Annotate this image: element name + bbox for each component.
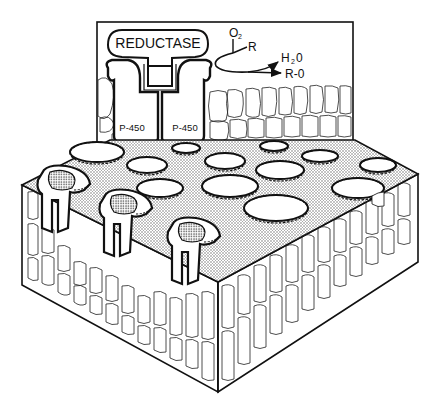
diagram-canvas: REDUCTASE P-450 P-450 O 2 R H 2 0 R-0 — [0, 0, 438, 408]
reductase-complex: REDUCTASE P-450 P-450 — [107, 30, 212, 142]
p450-right-label: P-450 — [172, 122, 197, 133]
pore — [172, 143, 200, 155]
pore — [260, 141, 288, 153]
water-tail: 0 — [296, 51, 303, 65]
pore — [360, 158, 396, 174]
substrate-label: R — [248, 40, 257, 54]
arrow-to-product — [248, 72, 281, 73]
pore — [202, 175, 258, 199]
p450-diagram: REDUCTASE P-450 P-450 O 2 R H 2 0 R-0 — [0, 0, 438, 408]
pore — [127, 157, 167, 175]
oxygen-label: O — [229, 26, 238, 40]
p450-left-label: P-450 — [119, 122, 144, 133]
oxygen-subscript: 2 — [238, 33, 242, 40]
oxidized-product-label: R-0 — [285, 67, 305, 81]
water-label: H — [281, 51, 290, 65]
reductase-label: REDUCTASE — [115, 35, 200, 51]
pore — [205, 153, 245, 171]
inset-panel: REDUCTASE P-450 P-450 O 2 R H 2 0 R-0 — [97, 22, 353, 147]
water-subscript: 2 — [291, 58, 295, 65]
tissue-block — [22, 140, 418, 392]
